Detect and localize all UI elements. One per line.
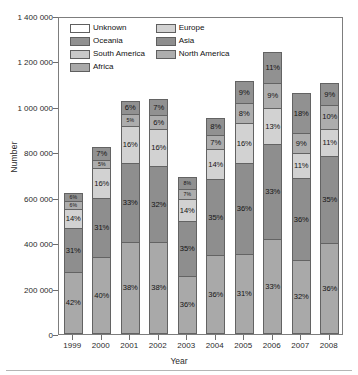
bar-segment[interactable]: 6% [64,193,83,202]
bar-segment[interactable]: 14% [178,199,197,222]
bar-stack[interactable]: 42%31%14%6%6% [64,188,83,335]
bar-segment[interactable]: 36% [206,255,225,334]
bar-segment[interactable]: 6% [121,101,140,116]
legend-label: Unknown [93,24,126,32]
bar-segment[interactable]: 6% [64,201,83,210]
bar-segment-label: 6% [70,203,77,208]
bar-segment[interactable]: 9% [292,133,311,154]
legend-item[interactable]: South America [70,48,146,60]
bar-segment[interactable]: 31% [64,228,83,273]
legend-label: North America [179,50,230,58]
bar-segment[interactable]: 31% [92,198,111,258]
bar-segment-label: 7% [184,192,191,197]
bar-segment-label: 35% [208,214,223,222]
bar-segment[interactable]: 13% [263,108,282,146]
bar-segment[interactable]: 16% [149,129,168,168]
bar-segment[interactable]: 14% [64,209,83,230]
bar-segment[interactable]: 6% [149,115,168,129]
bar-segment-label: 11% [294,162,308,170]
bar-segment[interactable]: 7% [149,99,168,116]
bar-segment-label: 36% [237,205,252,213]
bar-segment-label: 8% [184,181,191,186]
bar-segment-label: 40% [94,292,109,300]
bar-segment[interactable]: 36% [178,276,197,334]
bar-segment-label: 16% [94,180,109,188]
bar-stack[interactable]: 36%35%14%7%8% [178,173,197,334]
legend-item[interactable]: Oceania [70,35,146,47]
bar-segment[interactable]: 33% [121,163,140,243]
bar-segment[interactable]: 32% [292,260,311,334]
bar-segment[interactable]: 9% [235,81,254,104]
bar-segment-label: 16% [237,140,252,148]
bar-segment-label: 6% [70,195,77,200]
bar-segment[interactable]: 5% [92,160,111,170]
y-axis-tick-label: 600 000 [5,194,53,203]
bar-segment-label: 6% [125,104,136,112]
bar-segment[interactable]: 36% [320,243,339,334]
y-axis-tick-label: 400 000 [5,240,53,249]
bar-segment-label: 35% [180,245,195,253]
bar-segment[interactable]: 11% [320,129,339,157]
bar-segment-label: 5% [127,118,134,123]
bar-stack[interactable]: 36%35%14%7%8% [206,114,225,334]
legend-item[interactable]: North America [156,48,230,60]
bar-segment[interactable]: 18% [292,93,311,135]
legend-item[interactable]: Europe [156,22,230,34]
bar-segment[interactable]: 36% [235,163,254,255]
legend-swatch [156,50,176,59]
legend-item[interactable]: Asia [156,35,230,47]
bar-stack[interactable]: 36%35%11%10%9% [320,81,339,334]
bar-segment[interactable]: 7% [178,189,197,200]
legend-item[interactable]: Unknown [70,22,146,34]
bar-segment[interactable]: 35% [206,179,225,256]
x-axis-tick-mark [72,335,73,340]
bar-segment[interactable]: 42% [64,272,83,334]
y-axis-tick-label: 1 200 000 [5,58,53,67]
legend-label: Europe [179,24,205,32]
legend-swatch [156,37,176,46]
bar-segment[interactable]: 16% [92,168,111,199]
bar-segment-label: 9% [267,92,278,100]
bar-segment[interactable]: 7% [206,135,225,150]
legend-swatch [70,24,90,33]
y-axis-tick-label: 1 400 000 [5,13,53,22]
bar-stack[interactable]: 33%33%13%9%11% [263,45,282,334]
bar-segment[interactable]: 33% [263,239,282,334]
y-axis-tick-mark [53,335,58,336]
bar-segment[interactable]: 40% [92,257,111,334]
bar-segment-label: 33% [265,188,280,196]
bar-segment[interactable]: 32% [149,166,168,243]
bar-segment[interactable]: 14% [206,149,225,180]
bar-segment[interactable]: 9% [320,83,339,106]
bar-segment[interactable]: 16% [235,123,254,164]
bar-segment[interactable]: 8% [235,103,254,124]
bar-segment[interactable]: 36% [292,178,311,261]
bar-stack[interactable]: 32%36%11%9%18% [292,94,311,334]
bar-segment[interactable]: 8% [206,118,225,136]
bar-stack[interactable]: 38%33%16%5%6% [121,92,140,334]
bar-segment[interactable]: 8% [178,177,197,190]
bar-segment[interactable]: 16% [121,126,140,165]
bar-segment[interactable]: 5% [121,114,140,126]
bar-segment-label: 31% [94,224,109,232]
bar-segment-label: 9% [296,140,307,148]
bar-stack[interactable]: 31%36%16%8%9% [235,77,254,334]
x-axis-tick-mark [215,335,216,340]
bar-segment[interactable]: 7% [92,147,111,160]
bar-segment-label: 14% [208,161,223,169]
bar-segment[interactable]: 11% [263,52,282,84]
bar-segment[interactable]: 31% [235,254,254,334]
bar-segment[interactable]: 10% [320,105,339,130]
bar-segment[interactable]: 38% [149,242,168,334]
bar-segment[interactable]: 33% [263,144,282,239]
bar-segment[interactable]: 35% [178,221,197,277]
bar-segment[interactable]: 11% [292,153,311,178]
bar-segment[interactable]: 9% [263,83,282,109]
bar-segment-label: 9% [239,89,250,97]
bar-segment[interactable]: 38% [121,242,140,334]
bar-stack[interactable]: 38%32%16%6%7% [149,93,168,334]
bar-segment-label: 7% [153,104,164,112]
bar-stack[interactable]: 40%31%16%5%7% [92,141,111,334]
bar-segment[interactable]: 35% [320,156,339,244]
legend-item[interactable]: Africa [70,61,146,73]
